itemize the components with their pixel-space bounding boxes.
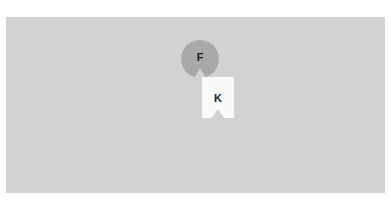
screenshot-root: FK xyxy=(0,0,391,206)
